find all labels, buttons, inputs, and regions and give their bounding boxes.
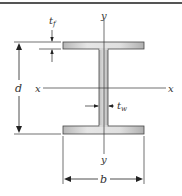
web: [99, 49, 108, 126]
i-beam-diagram: y y x x d tf: [0, 0, 182, 196]
web-thickness-label: tw: [117, 100, 127, 113]
y-axis-label-bottom: y: [100, 154, 107, 165]
top-flange: [63, 42, 144, 49]
flange-thickness-dimension: tf: [39, 15, 61, 62]
x-axis-label-right: x: [168, 83, 174, 94]
flange-width-label: b: [100, 173, 107, 186]
flange-thickness-label: tf: [49, 15, 57, 28]
y-axis-label-top: y: [100, 10, 107, 21]
depth-label: d: [15, 82, 22, 95]
x-axis-label-left: x: [35, 83, 41, 94]
bottom-flange: [63, 126, 144, 134]
